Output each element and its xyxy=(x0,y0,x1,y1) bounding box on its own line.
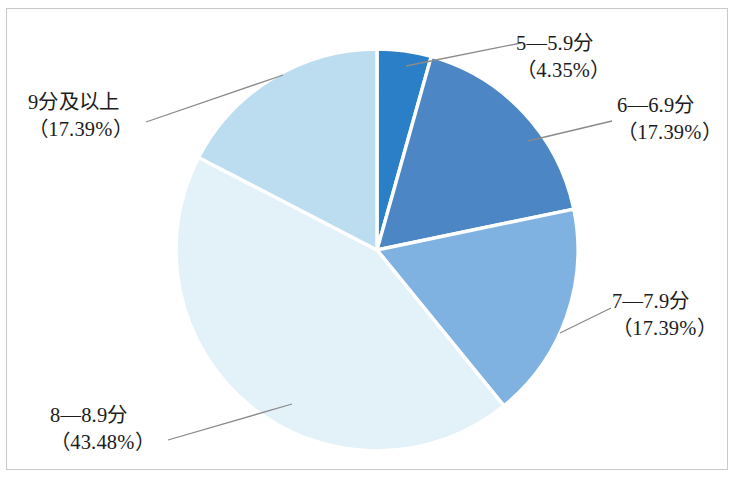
pie-label-5: 5—5.9分 （4.35%） xyxy=(516,30,610,84)
pie-label-7: 7—7.9分 （17.39%） xyxy=(612,288,717,342)
pie-label-8: 8—8.9分 （43.48%） xyxy=(50,402,155,456)
pie-label-5-percent: （4.35%） xyxy=(516,57,610,84)
pie-label-9-percent: （17.39%） xyxy=(28,116,133,143)
pie-label-8-percent: （43.48%） xyxy=(50,429,155,456)
pie-label-6-name: 6—6.9分 xyxy=(617,92,722,119)
pie-label-7-name: 7—7.9分 xyxy=(612,288,717,315)
pie-chart-figure: 5—5.9分 （4.35%） 6—6.9分 （17.39%） 7—7.9分 （1… xyxy=(0,0,736,478)
pie-label-7-percent: （17.39%） xyxy=(612,315,717,342)
pie-label-5-name: 5—5.9分 xyxy=(516,30,610,57)
pie-label-9-name: 9分及以上 xyxy=(28,89,133,116)
pie-label-9: 9分及以上 （17.39%） xyxy=(28,89,133,143)
pie-label-6-percent: （17.39%） xyxy=(617,119,722,146)
pie-label-8-name: 8—8.9分 xyxy=(50,402,155,429)
pie-slice-group xyxy=(176,49,578,451)
pie-label-6: 6—6.9分 （17.39%） xyxy=(617,92,722,146)
